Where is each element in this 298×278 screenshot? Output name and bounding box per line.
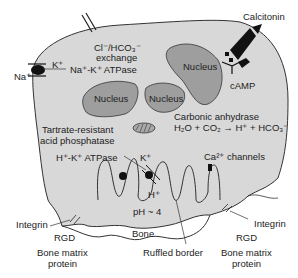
- ruffled-border-label: Ruffled border: [143, 247, 203, 258]
- k-plus-label-2: K⁺: [140, 152, 151, 163]
- ca-channels-label: Ca²⁺ channels: [204, 151, 265, 162]
- ph-label: pH ~ 4: [133, 206, 161, 217]
- na-k-atpase-label: Na⁺-K⁺ ATPase: [70, 64, 137, 75]
- integrin-right-pointer: [230, 211, 248, 219]
- camp-label: cAMP: [230, 80, 255, 91]
- h-k-atpase-label: H⁺-K⁺ ATPase: [56, 152, 118, 163]
- integrin-left-label: Integrin: [16, 219, 48, 230]
- k-plus-label: K⁺: [52, 59, 63, 70]
- calcitonin-label: Calcitonin: [243, 11, 285, 22]
- nucleus-label-middle: Nucleus: [149, 93, 183, 104]
- rgd-left-label: RGD: [54, 232, 75, 243]
- h-k-atpase-pump-2: [145, 171, 153, 179]
- h-plus-label: H⁺: [148, 189, 160, 200]
- integrin-right-label: Integrin: [254, 218, 286, 229]
- h-k-atpase-pump-1: [119, 172, 127, 180]
- bone-surface-right: [248, 195, 278, 198]
- exchange-label: exchange: [96, 52, 137, 63]
- osteoclast-diagram: Cl⁻/HCO₃⁻ exchange K⁺ Na⁺ Na⁺-K⁺ ATPase …: [0, 0, 298, 278]
- bone-label: Bone: [132, 228, 154, 239]
- trap-label-line1: Tartrate-resistant: [42, 124, 113, 135]
- nucleus-label-top: Nucleus: [183, 61, 217, 72]
- rgd-right-label: RGD: [236, 232, 257, 243]
- bone-matrix-right-line1: Bone matrix: [221, 247, 272, 258]
- bone-matrix-left-line1: Bone matrix: [37, 247, 88, 258]
- bone-matrix-right-line2: protein: [232, 258, 261, 269]
- carbonic-anhydrase-label: Carbonic anhydrase: [174, 111, 259, 122]
- nucleus-label-left: Nucleus: [94, 93, 128, 104]
- ca-channel-icon: [208, 164, 212, 171]
- trap-label-line2: acid phosphatase: [40, 135, 114, 146]
- reaction-label: H₂O + CO₂ → H⁺ + HCO₃⁻: [174, 122, 288, 133]
- na-plus-label: Na⁺: [14, 71, 31, 82]
- bone-matrix-left-line2: protein: [48, 258, 77, 269]
